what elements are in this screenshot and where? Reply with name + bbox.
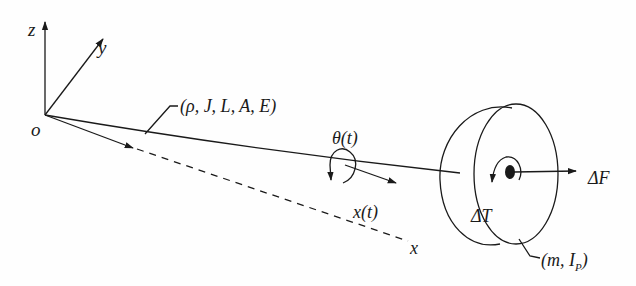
- disk-parameters-label: (m, IP): [541, 251, 588, 273]
- rotation-arrow-icon: [330, 149, 356, 183]
- beam-curve: [45, 115, 460, 173]
- x-axis-arrow: [45, 115, 133, 148]
- displacement-label: x(t): [353, 203, 378, 221]
- x-axis-label: x: [410, 239, 418, 257]
- y-axis-label: y: [98, 38, 106, 57]
- diagram-drawing: [0, 0, 636, 286]
- torque-label: ΔT: [471, 207, 492, 225]
- y-axis: [45, 39, 103, 115]
- rotation-label: θ(t): [332, 129, 358, 147]
- beam-leader: [145, 106, 178, 134]
- disk-hub: [505, 165, 515, 179]
- z-axis-label: z: [28, 20, 35, 39]
- force-arrow: [514, 171, 576, 172]
- disk-leader: [519, 239, 540, 258]
- force-label: ΔF: [588, 169, 610, 187]
- diagram-canvas: z y o x (ρ, J, L, A, E) θ(t) x(t) ΔT ΔF …: [0, 0, 636, 286]
- beam-parameters-label: (ρ, J, L, A, E): [180, 97, 276, 115]
- origin-label: o: [31, 120, 41, 139]
